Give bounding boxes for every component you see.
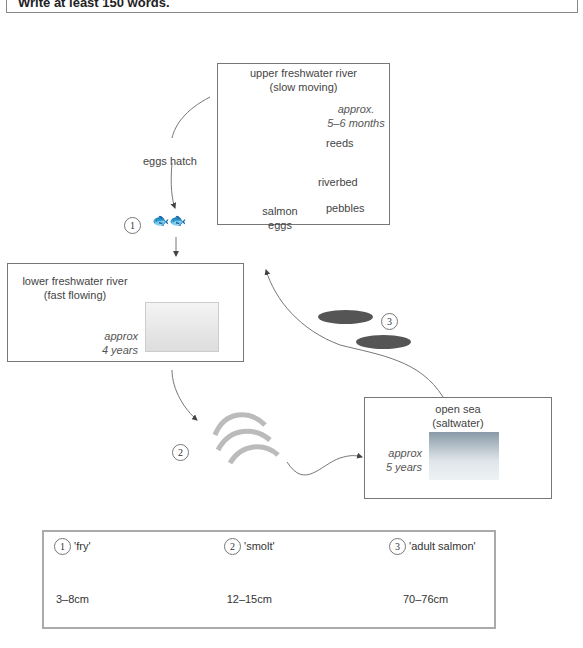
arrow-smolt-to-sea (287, 456, 362, 475)
sea-image (429, 432, 499, 480)
arrow-upper-to-hatch (172, 97, 210, 138)
smolt-fish-icon (210, 405, 280, 465)
stage-lower-river: lower freshwater river (fast flowing) ap… (7, 263, 244, 362)
upper-duration: approx. 5–6 months (326, 102, 386, 130)
legend-item-smolt: 2 'smolt' 12–15cm (224, 538, 275, 605)
label-pebbles: pebbles (326, 201, 365, 215)
adult-salmon-icon (318, 310, 373, 324)
stage-open-sea: open sea (saltwater) approx 5 years (364, 397, 552, 499)
fry-fish-icon: 🐟🐟 (152, 212, 186, 228)
label-reeds: reeds (326, 136, 354, 150)
legend-item-fry: 1 'fry' 3–8cm (54, 538, 90, 605)
legend-item-adult: 3 'adult salmon' 70–76cm (389, 538, 476, 605)
label-salmon-eggs: salmon eggs (260, 204, 300, 232)
waterfall-image (145, 302, 219, 352)
stage-upper-river: upper freshwater river (slow moving) app… (217, 63, 390, 225)
arrow-hatch-to-fry (171, 163, 175, 208)
label-eggs-hatch: eggs hatch (143, 154, 197, 168)
upper-title: upper freshwater river (slow moving) (218, 66, 389, 94)
marker-smolt: 2 (172, 444, 189, 461)
label-riverbed: riverbed (318, 175, 358, 189)
adult-salmon-icon-2 (356, 335, 411, 349)
arrow-sea-to-upper (266, 270, 443, 397)
legend-box: 1 'fry' 3–8cm 2 'smolt' 12–15cm 3 'adult… (42, 530, 496, 629)
arrow-lower-to-smolt (172, 370, 197, 420)
marker-adult: 3 (381, 313, 398, 330)
marker-fry: 1 (124, 217, 141, 234)
